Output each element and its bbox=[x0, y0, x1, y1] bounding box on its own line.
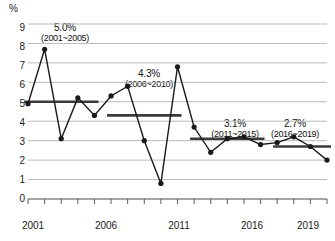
x-axis-ticks bbox=[28, 199, 327, 204]
line-chart: % 9 8 7 6 5 4 3 2 1 0 2001 2006 2011 201… bbox=[0, 0, 335, 241]
chart-plot-area bbox=[0, 0, 335, 241]
